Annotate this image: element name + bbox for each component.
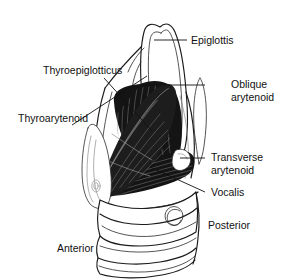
label-oblique-arytenoid-line1: Oblique	[231, 78, 267, 90]
label-anterior: Anterior	[57, 242, 94, 254]
label-transverse-arytenoid-line1: Transverse	[211, 151, 263, 163]
label-oblique-arytenoid-line2: arytenoid	[231, 91, 274, 103]
arytenoid-cartilage	[172, 149, 191, 170]
label-posterior: Posterior	[208, 219, 251, 231]
label-vocalis: Vocalis	[211, 186, 244, 198]
laryngeal-muscles-figure: Epiglottis Thyroepiglotticus Thyroaryten…	[0, 0, 291, 280]
anatomy-illustration: Epiglottis Thyroepiglotticus Thyroaryten…	[0, 0, 291, 280]
superior-cornu	[194, 78, 207, 164]
label-thyroarytenoid: Thyroarytenoid	[18, 112, 88, 124]
label-epiglottis: Epiglottis	[191, 34, 234, 46]
label-thyroepiglotticus: Thyroepiglotticus	[43, 64, 122, 76]
label-transverse-arytenoid-line2: arytenoid	[211, 164, 254, 176]
